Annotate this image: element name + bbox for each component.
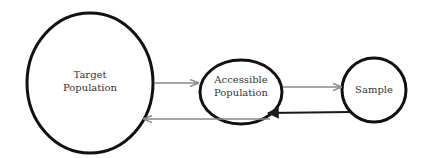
node-accessible-population: Accessible Population [200,60,282,124]
target-population-label-line1: Target [74,69,107,80]
sampling-diagram: Target Population Accessible Population … [0,0,426,158]
accessible-population-label-line2: Population [214,87,269,98]
sample-label: Sample [355,84,393,95]
accessible-population-label-line1: Accessible [213,74,267,85]
arrow-sample-to-accessible [268,112,350,113]
node-sample: Sample [342,58,406,122]
target-population-label-line2: Population [63,82,118,93]
node-target-population: Target Population [27,13,153,153]
